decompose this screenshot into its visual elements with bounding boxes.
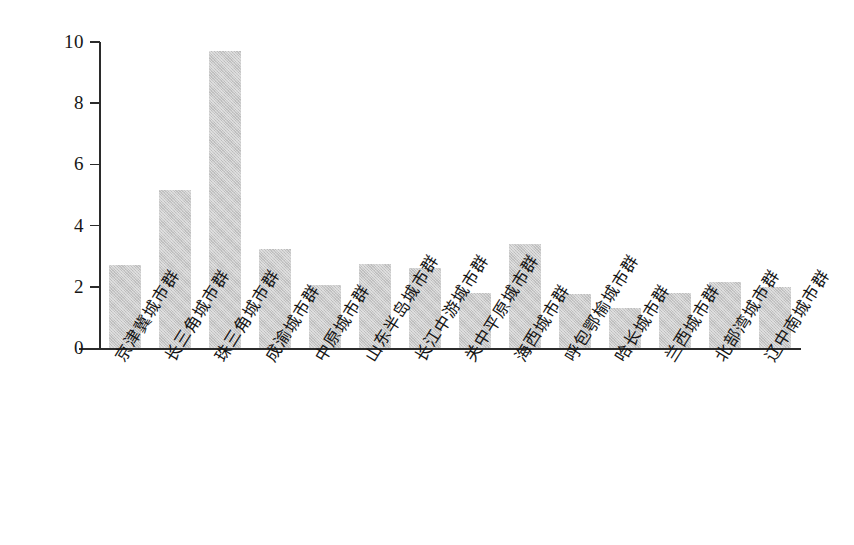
y-tick-label: 0 <box>44 338 84 357</box>
y-tick-mark <box>90 286 100 288</box>
y-tick-label: 8 <box>44 93 84 112</box>
y-tick-mark <box>90 225 100 227</box>
bar-chart-figure: 0246810 京津冀城市群长三角城市群珠三角城市群成渝城市群中原城市群山东半岛… <box>0 0 854 545</box>
y-tick-mark <box>90 164 100 166</box>
x-axis-category-labels: 京津冀城市群长三角城市群珠三角城市群成渝城市群中原城市群山东半岛城市群长江中游城… <box>100 352 800 542</box>
y-tick-mark <box>90 102 100 104</box>
y-tick-label: 4 <box>44 216 84 235</box>
y-tick-label: 6 <box>44 154 84 173</box>
y-tick-mark <box>90 41 100 43</box>
y-axis-tick-labels: 0246810 <box>24 0 84 545</box>
y-tick-label: 10 <box>44 32 84 51</box>
y-tick-label: 2 <box>44 277 84 296</box>
